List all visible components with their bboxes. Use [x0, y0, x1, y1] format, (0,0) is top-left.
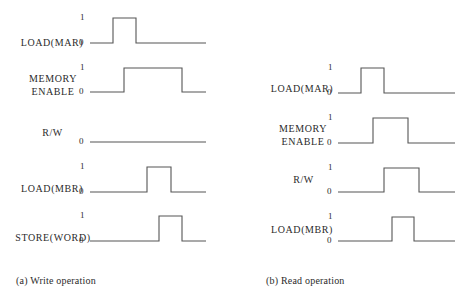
signal-waveform [338, 118, 455, 143]
signal-label: R/W [281, 173, 326, 186]
signal-waveform [338, 168, 455, 192]
level-high-label: 1 [80, 161, 85, 171]
level-low-label: 0 [79, 186, 84, 196]
level-high-label: 1 [328, 112, 333, 122]
signal-waveform [338, 217, 455, 241]
level-low-label: 0 [327, 87, 332, 97]
level-high-label: 1 [80, 12, 85, 22]
level-low-label: 0 [327, 137, 332, 147]
panel-caption: (b) Read operation [266, 275, 345, 286]
level-high-label: 1 [328, 62, 333, 72]
level-high-label: 1 [80, 210, 85, 220]
level-low-label: 0 [79, 86, 84, 96]
level-high-label: 1 [328, 211, 333, 221]
signal-waveform [90, 18, 206, 43]
signal-waveform [90, 167, 206, 192]
level-high-label: 1 [328, 162, 333, 172]
level-low-label: 0 [327, 235, 332, 245]
level-low-label: 0 [79, 37, 84, 47]
signal-label: MEMORY ENABLE [18, 72, 88, 98]
signal-label: R/W [30, 126, 75, 139]
level-low-label: 0 [327, 186, 332, 196]
signal-waveform [338, 68, 455, 93]
level-high-label: 1 [80, 62, 85, 72]
level-low-label: 0 [79, 235, 84, 245]
signal-waveform [90, 216, 206, 241]
signal-waveform [90, 68, 206, 92]
level-low-label: 0 [79, 136, 84, 146]
panel-caption: (a) Write operation [16, 275, 96, 286]
